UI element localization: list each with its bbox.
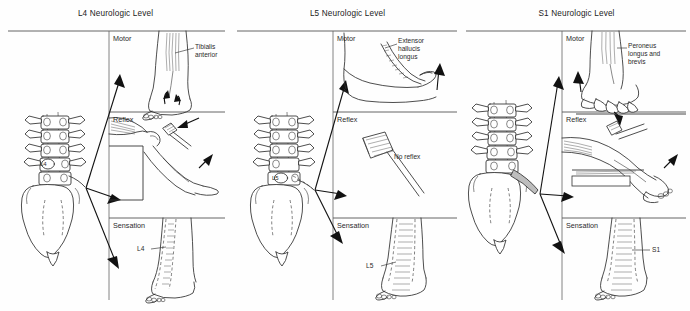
reflex-illustration-patellar [109, 118, 219, 200]
root-to-section-arrows [86, 74, 125, 269]
section-label-motor: Motor [337, 34, 355, 43]
sensation-illustration-dermatome [595, 218, 650, 300]
lumbar-spine-illustration [468, 100, 538, 254]
panel-l5-artwork [235, 0, 460, 311]
panel-l4: L4 Neurologic Level [3, 0, 228, 311]
panel-l5: L5 Neurologic Level [235, 0, 460, 311]
annotation-sensation: L5 [366, 262, 373, 270]
sensation-illustration-dermatome [146, 218, 196, 303]
annotation-motor: Peroneus longus and brevis [628, 42, 660, 67]
annotation-motor: Tibialis anterior [195, 43, 217, 59]
motor-illustration-foot [344, 33, 445, 103]
reflex-illustration-achilles [562, 112, 678, 203]
section-label-reflex: Reflex [566, 115, 586, 124]
root-to-section-arrows [315, 80, 349, 244]
figure-canvas: L4 Neurologic Level [0, 0, 690, 311]
section-label-sensation: Sensation [337, 221, 369, 230]
annotation-motor: Extensor hallucis longus [398, 37, 424, 62]
lumbar-spine-illustration [250, 112, 315, 266]
spine-level-label-l4: L4 [40, 160, 47, 168]
annotation-sensation: S1 [652, 246, 660, 254]
motor-illustration-leg [143, 31, 194, 120]
section-label-sensation: Sensation [113, 221, 145, 230]
section-label-motor: Motor [113, 34, 131, 43]
spine-level-label-l5: L5 [272, 174, 279, 182]
lumbar-spine-illustration [21, 112, 86, 266]
section-label-reflex: Reflex [337, 115, 357, 124]
section-label-sensation: Sensation [566, 221, 598, 230]
sensation-illustration-dermatome [376, 218, 426, 300]
panel-s1: S1 Neurologic Level [464, 0, 689, 311]
reflex-illustration-hammer [363, 132, 424, 196]
section-label-motor: Motor [566, 34, 584, 43]
section-label-reflex: Reflex [113, 115, 133, 124]
annotation-reflex: No reflex [394, 153, 420, 161]
annotation-sensation: L4 [137, 245, 144, 253]
